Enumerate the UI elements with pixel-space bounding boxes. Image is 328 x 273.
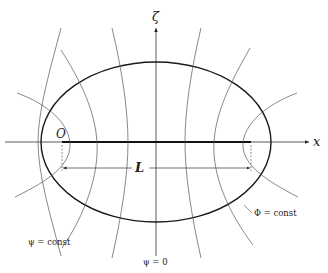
length-label: L (134, 160, 144, 175)
leader-phi (244, 205, 252, 213)
stream-line-right-far (214, 48, 253, 245)
x-axis-label: x (313, 134, 321, 149)
psi-zero-label: ψ = 0 (143, 257, 168, 267)
zeta-axis-label: ζ (152, 9, 160, 24)
stream-line-left-far (61, 50, 97, 248)
phi-const-label: Φ = const (254, 208, 297, 218)
psi-const-label: ψ = const (28, 237, 71, 247)
origin-label: O (56, 127, 66, 141)
potential-flow-diagram: ζ x O L Φ = const ψ = const ψ = 0 (0, 0, 328, 273)
